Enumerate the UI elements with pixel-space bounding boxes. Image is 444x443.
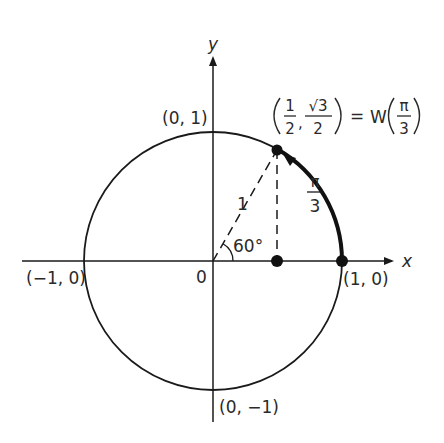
- label-top-intercept: (0, 1): [162, 108, 208, 128]
- svg-text:1: 1: [285, 97, 295, 115]
- point-one-zero: [336, 255, 348, 267]
- angle-arc: [223, 244, 233, 261]
- label-right-intercept: (1, 0): [343, 269, 389, 289]
- point-on-circle: [272, 145, 283, 156]
- radius-label: 1: [237, 194, 248, 214]
- svg-text:√3: √3: [308, 97, 327, 115]
- x-axis-label: x: [401, 251, 413, 271]
- svg-text:π: π: [399, 97, 408, 115]
- svg-text:π: π: [310, 173, 319, 191]
- origin-label: 0: [196, 267, 207, 287]
- unit-circle-diagram: y x 0 (0, 1) (0, −1) (−1, 0) (1, 0) 1 60…: [0, 0, 444, 443]
- svg-text:W: W: [370, 107, 387, 127]
- label-bottom-intercept: (0, −1): [219, 397, 279, 417]
- svg-text:3: 3: [310, 196, 321, 216]
- svg-text:3: 3: [399, 120, 409, 138]
- label-left-intercept: (−1, 0): [26, 268, 86, 288]
- svg-text:=: =: [350, 106, 364, 126]
- svg-text:,: ,: [298, 114, 303, 132]
- svg-text:2: 2: [285, 120, 295, 138]
- point-half-on-x-axis: [271, 255, 283, 267]
- angle-label: 60°: [233, 236, 263, 256]
- point-coordinate-label: 1 2 , √3 2 = W π 3: [274, 97, 420, 138]
- arc-label: π 3: [307, 173, 323, 216]
- svg-text:2: 2: [313, 120, 323, 138]
- y-axis-label: y: [207, 34, 219, 54]
